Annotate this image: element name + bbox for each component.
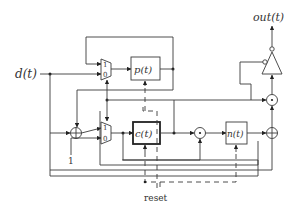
- block-c-label: c(t): [135, 128, 153, 139]
- mux-top: 1 0: [101, 59, 111, 80]
- mux-top-input-1: 1: [103, 61, 107, 69]
- mux-top-input-0: 0: [103, 71, 107, 79]
- mux-bottom-input-0: 0: [103, 135, 107, 143]
- wire-buffer-enable: [240, 62, 263, 100]
- mux-bottom-input-1: 1: [103, 124, 107, 132]
- multiplier-right: [267, 95, 278, 106]
- reset-network: [143, 107, 236, 190]
- wire-n-loop: [122, 160, 258, 165]
- block-p-label: p(t): [134, 64, 152, 75]
- reset-label: reset: [144, 193, 168, 203]
- input-label-d: d(t): [15, 67, 37, 81]
- block-diagram: d(t) 1 0 p(t) 1 0 1: [0, 0, 300, 213]
- output-label-out: out(t): [253, 11, 284, 24]
- const-one-label: 1: [68, 156, 74, 166]
- mux-bottom: 1 0: [101, 122, 111, 144]
- block-n-label: n(t): [227, 129, 244, 139]
- adder-right: [267, 128, 278, 139]
- adder-left: [71, 128, 82, 139]
- multiplier-mid: [195, 128, 206, 139]
- tristate-buffer: [262, 47, 282, 74]
- wire-adder-to-mux: [82, 128, 102, 133]
- wire-const-one: [71, 138, 101, 155]
